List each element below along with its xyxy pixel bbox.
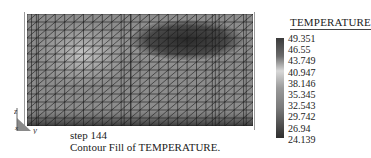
legend-colorbar — [276, 38, 284, 138]
mesh-graphic — [27, 14, 253, 126]
legend-tick: 46.55 — [288, 44, 316, 55]
legend-tick: 49.351 — [288, 33, 316, 44]
legend-tick: 35.345 — [288, 89, 316, 100]
contour-plot-mesh — [27, 14, 253, 126]
contour-caption: Contour Fill of TEMPERATURE. — [70, 141, 220, 153]
figure-caption: step 144 Contour Fill of TEMPERATURE. — [70, 129, 220, 153]
legend-tick: 38.146 — [288, 78, 316, 89]
legend-title: TEMPERATURE — [290, 16, 371, 30]
legend-tick: 26.94 — [288, 123, 316, 134]
axis-y-label: y — [32, 125, 37, 134]
axis-triad-icon: z x y — [14, 104, 40, 134]
step-label: step 144 — [70, 129, 220, 141]
legend-tick: 24.139 — [288, 134, 316, 145]
legend-tick: 32.543 — [288, 100, 316, 111]
legend-tick: 43.749 — [288, 55, 316, 66]
legend-tick: 29.742 — [288, 111, 316, 122]
legend-tick: 40.947 — [288, 67, 316, 78]
legend-tick-labels: 49.351 46.55 43.749 40.947 38.146 35.345… — [288, 33, 316, 145]
frame-right-line — [254, 12, 255, 130]
